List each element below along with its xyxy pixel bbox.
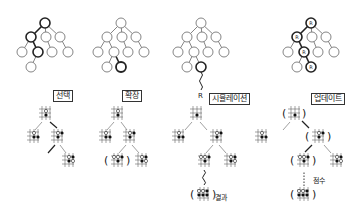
stage-label-simulation: 시뮬레이션 (209, 93, 250, 105)
svg-text:(: ( (305, 130, 309, 143)
rollout-result-marker: R (198, 92, 203, 100)
svg-text:): ) (327, 130, 331, 143)
mcts-diagram: R RR RR (0, 0, 364, 214)
svg-text:(: ( (290, 154, 294, 167)
svg-text:R: R (302, 49, 306, 55)
stage-label-update: 업데이트 (311, 93, 345, 105)
simulation-boards: ( ) (172, 106, 237, 201)
stage-label-expansion: 확장 (122, 90, 142, 102)
update-score-label: 점수 (313, 175, 325, 185)
svg-text:): ) (126, 154, 130, 167)
expansion-tree (93, 18, 149, 72)
simulation-result-label: 결과 (215, 192, 227, 202)
svg-text:(: ( (104, 154, 108, 167)
expansion-boards: ( ) (99, 106, 148, 167)
svg-text:(: ( (190, 188, 194, 201)
stage-label-selection: 선택 (53, 90, 73, 102)
selection-tree (17, 18, 73, 72)
svg-text:R: R (309, 64, 313, 70)
svg-text:): ) (312, 188, 316, 201)
svg-text:): ) (302, 107, 306, 120)
svg-text:R: R (309, 20, 313, 26)
svg-text:R: R (295, 34, 299, 40)
svg-text:(: ( (282, 107, 286, 120)
simulation-tree (173, 18, 229, 90)
update-boards: ( ) ( ) ( ) ( ) (255, 106, 343, 201)
selection-boards (27, 106, 75, 167)
svg-text:(: ( (290, 188, 294, 201)
svg-text:): ) (312, 154, 316, 167)
